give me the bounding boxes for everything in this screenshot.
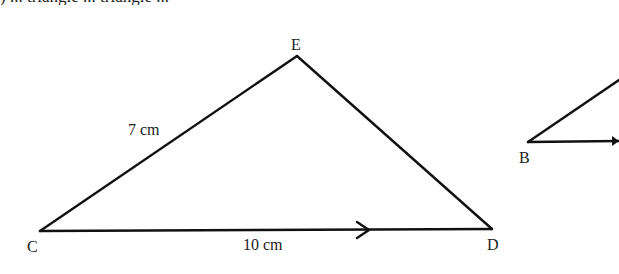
side-b-upper bbox=[528, 80, 619, 142]
side-ce bbox=[40, 56, 297, 231]
vertex-label-e: E bbox=[291, 36, 301, 53]
parallel-arrow-icon bbox=[612, 136, 619, 146]
side-ed bbox=[297, 56, 492, 229]
triangle-cde bbox=[40, 56, 492, 238]
vertex-label-d: D bbox=[487, 236, 499, 253]
vertex-label-c: C bbox=[27, 238, 38, 255]
vertex-label-b: B bbox=[519, 149, 530, 166]
side-b-lower bbox=[528, 141, 619, 142]
side-label-cd: 10 cm bbox=[243, 236, 283, 253]
side-cd bbox=[40, 229, 492, 231]
triangle-b bbox=[528, 80, 619, 146]
geometry-diagram: C E D B 7 cm 10 cm bbox=[0, 0, 619, 274]
side-label-ce: 7 cm bbox=[128, 121, 160, 138]
